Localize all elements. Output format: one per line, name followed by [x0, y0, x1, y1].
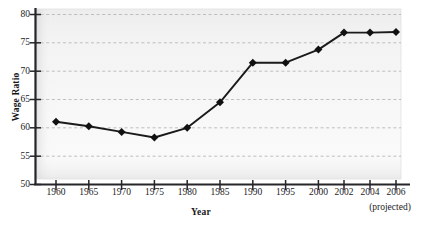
y-tick-label: 70: [10, 67, 30, 77]
y-tick-label: 80: [10, 10, 30, 20]
plot-background: [35, 9, 401, 179]
x-axis-title: Year: [0, 207, 438, 217]
y-tick-label: 55: [10, 152, 30, 162]
wage-ratio-line-chart: Wage Ratio 80 75 70 65 60 55 50 1960 196…: [0, 0, 438, 229]
y-tick-label: 75: [10, 38, 30, 48]
x-tick-label: 2006: [374, 188, 418, 198]
y-tick-label: 65: [10, 95, 30, 105]
x-axis-title-text: Year: [191, 207, 211, 217]
y-tick-label: 60: [10, 123, 30, 133]
